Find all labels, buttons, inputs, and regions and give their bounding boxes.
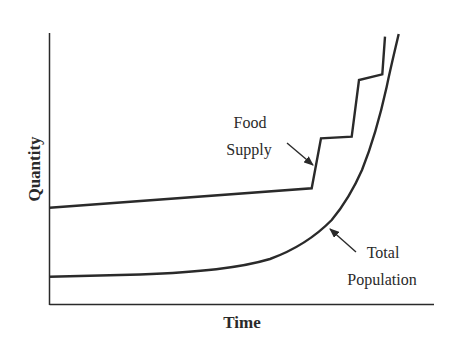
total-population-label-line1: Total	[367, 244, 400, 261]
total-population-curve	[50, 34, 399, 277]
food-supply-label-line1: Food	[234, 114, 267, 131]
food-supply-label-line2: Supply	[226, 141, 271, 159]
food-supply-arrow	[287, 143, 313, 165]
food-supply-line	[50, 37, 386, 208]
x-axis-title: Time	[223, 313, 261, 332]
total-population-arrow	[330, 229, 356, 252]
chart: Food Supply Total Population Time Quanti…	[0, 0, 455, 344]
total-population-label-line2: Population	[347, 271, 416, 289]
y-axis-title: Quantity	[25, 136, 44, 202]
